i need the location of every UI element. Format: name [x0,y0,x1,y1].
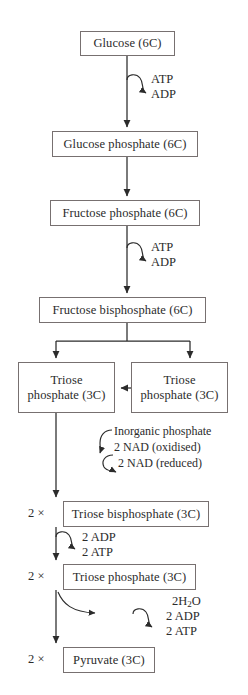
cofactor-text: 2 ATP [82,545,113,559]
box-triose-bisphosphate[interactable]: Triose bisphosphate (3C) [63,501,209,527]
multiplier-text: 2 × [28,506,44,520]
cofactor-2adp-1: 2 ADP [82,530,116,545]
multiplier-triose-bisphosphate: 2 × [28,506,44,521]
cofactor-atp-2: ATP [151,240,173,255]
box-triose-phosphate-left-line1: Triose [50,373,82,387]
cofactor-atp-1: ATP [151,72,173,87]
multiplier-pyruvate: 2 × [28,652,44,667]
cofactor-inorganic-phosphate: Inorganic phosphate [114,424,211,438]
box-glucose-label: Glucose (6C) [93,36,161,50]
hook-arrow-adp-atp-final [133,609,152,627]
cofactor-2adp-2: 2 ADP [166,609,200,624]
box-glucose[interactable]: Glucose (6C) [80,31,175,56]
cofactor-water: 2H2O [172,594,201,610]
box-pyruvate[interactable]: Pyruvate (3C) [63,647,155,673]
box-triose-phosphate-left[interactable]: Triose phosphate (3C) [18,362,115,413]
box-triose-phosphate-right-line2: phosphate (3C) [140,388,218,402]
cofactor-water-suffix: O [192,594,201,608]
cofactor-nad-oxidised: 2 NAD (oxidised) [114,440,201,454]
box-triose-phosphate-right-line1: Triose [163,373,195,387]
hook-arrow-adp-atp-2 [56,532,75,549]
cofactor-water-prefix: 2H [172,594,187,608]
cofactor-text: 2 NAD (reduced) [118,456,202,470]
cofactor-text: ATP [151,240,173,254]
cofactor-adp-2: ADP [151,255,176,270]
box-glucose-phosphate[interactable]: Glucose phosphate (6C) [52,131,198,157]
hook-arrow-inputs-pi-nad [100,430,112,453]
cofactor-2atp-2: 2 ATP [166,624,197,639]
cofactor-adp-1: ADP [151,87,176,102]
cofactor-2atp-1: 2 ATP [82,545,113,560]
box-fructose-bisphosphate[interactable]: Fructose bisphosphate (6C) [39,297,206,323]
box-glucose-phosphate-label: Glucose phosphate (6C) [63,137,186,151]
hook-arrow-atp-adp-1 [127,75,146,93]
box-pyruvate-label: Pyruvate (3C) [73,653,145,667]
cofactor-text: 2 ATP [166,624,197,638]
cofactor-text: Inorganic phosphate [114,424,211,438]
cofactor-text: 2 ADP [166,609,200,623]
box-fructose-phosphate-label: Fructose phosphate (6C) [62,206,187,220]
box-fructose-bisphosphate-label: Fructose bisphosphate (6C) [52,303,192,317]
cofactor-text: 2 ADP [82,530,116,544]
box-fructose-phosphate[interactable]: Fructose phosphate (6C) [50,200,200,226]
multiplier-triose-phosphate-2x: 2 × [28,569,44,584]
box-triose-phosphate-2x[interactable]: Triose phosphate (3C) [63,564,196,590]
hook-arrow-atp-adp-2 [127,243,146,261]
box-triose-phosphate-right[interactable]: Triose phosphate (3C) [131,362,228,413]
hook-arrow-nad-reduced [103,455,116,472]
pathway-arrows-layer [0,0,248,695]
cofactor-text: ADP [151,255,176,269]
cofactor-text: ADP [151,87,176,101]
cofactor-nad-reduced: 2 NAD (reduced) [118,456,202,470]
box-triose-phosphate-2x-label: Triose phosphate (3C) [73,570,186,584]
cofactor-text: ATP [151,72,173,86]
multiplier-text: 2 × [28,569,44,583]
box-triose-phosphate-left-line2: phosphate (3C) [27,388,105,402]
glycolysis-diagram: Glucose (6C) Glucose phosphate (6C) Fruc… [0,0,248,695]
box-triose-bisphosphate-label: Triose bisphosphate (3C) [72,507,200,521]
cofactor-text: 2 NAD (oxidised) [114,440,201,454]
multiplier-text: 2 × [28,652,44,666]
branch-arrow-dehydration [58,592,95,613]
